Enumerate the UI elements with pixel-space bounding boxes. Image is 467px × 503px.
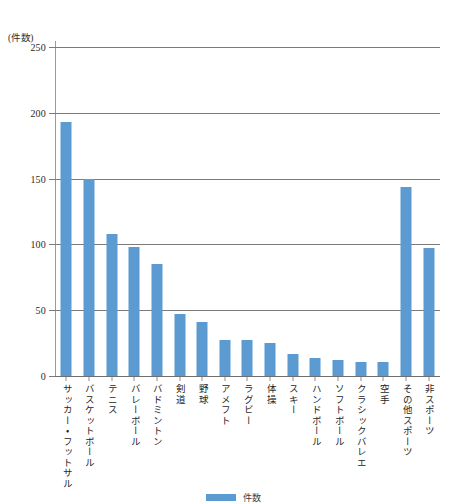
x-axis-label: クラシックバレエ xyxy=(355,384,366,468)
x-axis-tick xyxy=(156,377,157,381)
x-axis-label: サッカー・フットサル xyxy=(61,384,72,489)
bar-slot xyxy=(236,47,259,376)
x-axis-tick xyxy=(111,377,112,381)
x-axis-tick xyxy=(224,377,225,381)
bar xyxy=(197,322,208,376)
bar-slot xyxy=(349,47,372,376)
bar-slot xyxy=(146,47,169,376)
bar xyxy=(310,358,321,376)
bar-slot xyxy=(395,47,418,376)
x-axis-label: バドミントン xyxy=(151,384,162,447)
y-axis-tick-label: 50 xyxy=(36,305,46,316)
x-axis-tick xyxy=(383,377,384,381)
y-axis-tick-label: 0 xyxy=(41,371,46,382)
bar xyxy=(378,362,389,376)
y-axis-tick-label: 100 xyxy=(30,239,46,250)
x-axis-tick xyxy=(270,377,271,381)
bar xyxy=(61,122,72,376)
y-axis-tick xyxy=(49,376,55,377)
bar xyxy=(106,234,117,376)
bar-chart: (件数) 050100150200250 サッカー・フットサルバスケットボールテ… xyxy=(0,0,467,503)
x-axis-label: ソフトボール xyxy=(333,384,344,447)
x-axis-tick xyxy=(66,377,67,381)
bar xyxy=(83,179,94,376)
bar-slot xyxy=(281,47,304,376)
plot-area: 050100150200250 xyxy=(55,47,440,376)
bar-slot xyxy=(417,47,440,376)
bar-slot xyxy=(259,47,282,376)
bar xyxy=(401,187,412,377)
x-axis-tick xyxy=(179,377,180,381)
x-axis-label: スキー xyxy=(287,384,298,416)
bar-slot xyxy=(55,47,78,376)
x-axis-tick xyxy=(360,377,361,381)
x-axis-label: 体操 xyxy=(265,384,276,405)
x-axis-tick xyxy=(247,377,248,381)
y-axis-tick-label: 200 xyxy=(30,107,46,118)
legend-swatch-icon xyxy=(206,494,236,501)
bars-group xyxy=(55,47,440,376)
legend-label: 件数 xyxy=(243,492,261,503)
y-axis-tick-label: 250 xyxy=(30,42,46,53)
bar xyxy=(423,248,434,376)
y-axis-tick-label: 150 xyxy=(30,173,46,184)
bar-slot xyxy=(191,47,214,376)
x-axis-label: 野球 xyxy=(197,384,208,405)
bar-slot xyxy=(78,47,101,376)
x-axis-label: 非スポーツ xyxy=(423,384,434,437)
bar-slot xyxy=(327,47,350,376)
bar xyxy=(219,340,230,376)
bar-slot xyxy=(123,47,146,376)
y-axis-unit-caption: (件数) xyxy=(8,30,33,44)
x-axis-label: 剣道 xyxy=(174,384,185,405)
bar xyxy=(287,354,298,376)
x-axis-tick xyxy=(428,377,429,381)
bar xyxy=(265,343,276,376)
x-axis-label: ラグビー xyxy=(242,384,253,426)
x-axis-label: アメフト xyxy=(219,384,230,426)
x-axis-label: その他スポーツ xyxy=(401,384,412,458)
bar-slot xyxy=(100,47,123,376)
bar xyxy=(174,314,185,376)
bar-slot xyxy=(372,47,395,376)
bar xyxy=(355,362,366,376)
bar xyxy=(129,247,140,376)
x-axis-tick xyxy=(315,377,316,381)
bar xyxy=(242,340,253,376)
x-axis-label: バスケットボール xyxy=(83,384,94,468)
chart-legend: 件数 xyxy=(0,492,467,503)
bar-slot xyxy=(214,47,237,376)
x-axis-labels: サッカー・フットサルバスケットボールテニスバレーボールバドミントン剣道野球アメフ… xyxy=(55,384,440,484)
bar xyxy=(333,360,344,376)
x-axis-label: ハンドボール xyxy=(310,384,321,447)
x-axis-label: バレーボール xyxy=(129,384,140,447)
x-axis-label: テニス xyxy=(106,384,117,416)
x-axis-tick xyxy=(406,377,407,381)
x-axis-tick xyxy=(88,377,89,381)
bar-slot xyxy=(304,47,327,376)
bar xyxy=(151,264,162,376)
x-axis-tick xyxy=(134,377,135,381)
x-axis-label: 空手 xyxy=(378,384,389,405)
x-axis-tick xyxy=(338,377,339,381)
x-axis-tick xyxy=(292,377,293,381)
x-axis-tick xyxy=(202,377,203,381)
bar-slot xyxy=(168,47,191,376)
